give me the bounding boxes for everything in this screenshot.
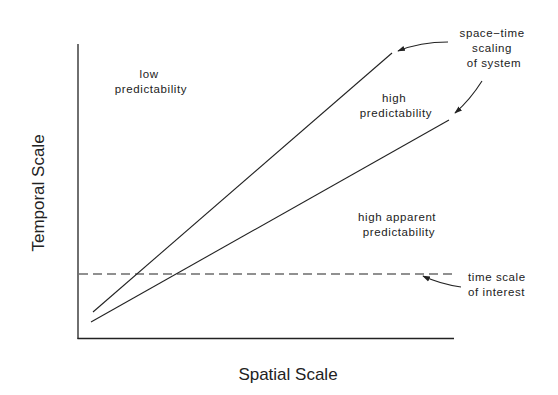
time-scale-of-interest-label: time scale of interest — [468, 271, 530, 298]
high-predictability-label: high predictability — [360, 92, 432, 119]
arrow-to-steep-line — [398, 42, 448, 51]
high-apparent-predictability-label: high apparent predictability — [358, 211, 440, 238]
space-time-scaling-label: space−time scaling of system — [460, 27, 529, 69]
arrow-to-dashed-line — [423, 276, 461, 287]
x-axis-label: Spatial Scale — [238, 365, 337, 384]
low-predictability-label: low predictability — [115, 68, 187, 95]
arrow-to-shallow-line — [455, 81, 482, 113]
diagram-canvas: low predictability high predictability h… — [0, 0, 558, 395]
y-axis-label: Temporal Scale — [29, 134, 48, 251]
